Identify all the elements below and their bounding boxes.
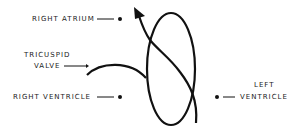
label-left-line2: VENTRICLE	[240, 93, 288, 101]
right-ventricle-dot	[118, 95, 122, 99]
label-right-ventricle: RIGHT VENTRICLE	[13, 93, 91, 101]
tricuspid-arrow-icon	[86, 64, 89, 68]
left-ventricle-dot	[215, 95, 219, 99]
tricuspid-valve-curve	[87, 65, 146, 78]
right-atrium-dot	[118, 17, 122, 21]
heart-loop-ellipse	[147, 13, 195, 125]
arrowhead-icon	[134, 7, 145, 19]
label-tricuspid-line1: TRICUSPID	[24, 51, 70, 59]
label-tricuspid-line2: VALVE	[34, 62, 60, 70]
label-right-atrium: RIGHT ATRIUM	[32, 15, 95, 23]
label-left-line1: LEFT	[254, 81, 275, 89]
